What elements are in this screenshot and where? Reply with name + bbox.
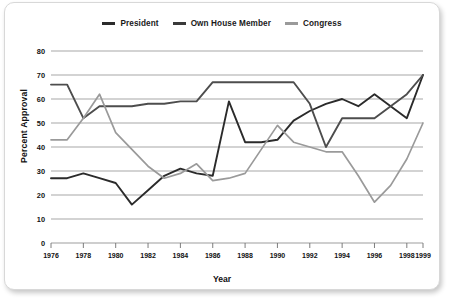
x-tick-label-1999: 1999 [406,252,440,259]
x-tick-label-1980: 1980 [99,252,133,259]
y-tick-label-40: 40 [19,143,45,152]
y-tick-label-50: 50 [19,119,45,128]
y-tick-label-70: 70 [19,71,45,80]
x-tick-label-1994: 1994 [325,252,359,259]
x-tick-label-1984: 1984 [163,252,197,259]
chart-card: President Own House Member Congress Perc… [4,2,440,290]
x-tick-label-1992: 1992 [293,252,327,259]
x-tick-label-1986: 1986 [196,252,230,259]
x-tick-label-1976: 1976 [34,252,68,259]
x-tick-label-1988: 1988 [228,252,262,259]
x-tick-label-1990: 1990 [260,252,294,259]
y-tick-label-60: 60 [19,95,45,104]
y-tick-label-0: 0 [19,239,45,248]
y-tick-label-80: 80 [19,47,45,56]
x-tick-label-1982: 1982 [131,252,165,259]
y-tick-label-20: 20 [19,191,45,200]
x-tick-label-1996: 1996 [357,252,391,259]
line-chart-svg [5,3,440,290]
y-tick-label-30: 30 [19,167,45,176]
y-tick-label-10: 10 [19,215,45,224]
x-tick-label-1978: 1978 [66,252,100,259]
series-line-president [51,75,423,205]
series-line-congress [51,94,423,202]
